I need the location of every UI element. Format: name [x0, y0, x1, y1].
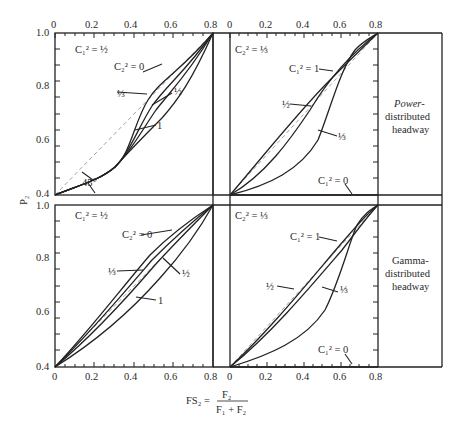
xlabel-denominator: F₁ + F₂ [216, 404, 247, 415]
gamma-label-1: Gamma- [392, 255, 429, 266]
label-b-c1-0: C₁² = 0 [318, 344, 348, 355]
label-b-half: ½ [182, 268, 190, 279]
power-label-1: Power- [393, 98, 425, 109]
svg-text:0.6: 0.6 [36, 306, 49, 317]
svg-text:0.2: 0.2 [259, 371, 272, 382]
svg-text:0: 0 [227, 19, 232, 30]
svg-text:0.8: 0.8 [36, 252, 49, 263]
svg-text:0.6: 0.6 [36, 134, 49, 145]
gamma-label-3: headway [392, 281, 430, 292]
svg-text:0.4: 0.4 [296, 19, 310, 30]
tick-y-1.0: 1.0 [36, 27, 49, 38]
label-b-third: ⅓ [108, 266, 116, 277]
svg-text:0.8: 0.8 [204, 371, 217, 382]
svg-text:1.0: 1.0 [36, 200, 49, 211]
curve-c1-third [230, 33, 378, 195]
gamma-label-2: distributed [385, 268, 431, 279]
label-b-one: 1 [158, 295, 163, 306]
svg-text:0: 0 [52, 371, 57, 382]
param-bottom-left: C₁² = ½ [75, 210, 108, 221]
tick-x-top-08: 0.8 [204, 19, 217, 30]
svg-text:0: 0 [227, 371, 232, 382]
svg-text:0.2: 0.2 [85, 371, 98, 382]
svg-text:0.8: 0.8 [369, 19, 382, 30]
svg-text:0.6: 0.6 [164, 371, 177, 382]
label-c1-third: ⅓ [338, 131, 346, 142]
curves-bottom-right [230, 205, 378, 367]
label-b-c1-1: C₁² = 1 [290, 231, 320, 242]
label-half: ½ [174, 86, 182, 97]
svg-text:0.4: 0.4 [36, 188, 50, 199]
power-label-2: distributed [385, 111, 431, 122]
tick-x-top-02: 0.2 [85, 19, 98, 30]
ylabel: P₂ [18, 195, 29, 205]
label-b-c2-0: C₂² = 0 [122, 229, 152, 240]
param-bottom-right: C₂² = ⅓ [235, 210, 268, 221]
svg-text:0.4: 0.4 [296, 371, 310, 382]
label-c1-0: C₁² = 0 [318, 175, 348, 186]
annotation-arrows [82, 64, 352, 364]
tick-x-top-06: 0.6 [164, 19, 177, 30]
param-top-right: C₂² = ⅓ [235, 44, 268, 55]
label-one: 1 [157, 120, 162, 131]
svg-text:0.6: 0.6 [333, 371, 346, 382]
xlabel-left: FS₂ = [186, 395, 210, 406]
power-label-3: headway [392, 124, 430, 135]
curve-b-c1-third [230, 205, 378, 367]
label-c1-half: ½ [282, 99, 290, 110]
tick-x-top-0: 0 [51, 19, 56, 30]
reference-45-lines [55, 33, 378, 367]
svg-text:0.8: 0.8 [36, 80, 49, 91]
param-top-left: C₁² = ½ [75, 44, 108, 55]
svg-text:0.4: 0.4 [124, 371, 138, 382]
curve-c1-1 [230, 33, 378, 195]
svg-text:0.6: 0.6 [333, 19, 346, 30]
axis-ticks [55, 33, 378, 367]
label-c1-1: C₁² = 1 [289, 63, 319, 74]
curves-top-right [230, 33, 378, 195]
label-angle: 45° [82, 177, 97, 188]
label-b-c1-half: ½ [266, 281, 274, 292]
svg-text:0.2: 0.2 [259, 19, 272, 30]
xlabel-numerator: F₂ [222, 389, 232, 400]
label-c2-0: C₂² = 0 [114, 61, 144, 72]
figure: 0 0.2 0.4 0.6 0.8 0 0.2 0.4 0.6 0.8 1.0 … [0, 0, 459, 429]
label-third: ⅓ [117, 88, 125, 99]
svg-text:0.4: 0.4 [36, 361, 50, 372]
tick-x-top-04: 0.4 [124, 19, 138, 30]
curve-c1-half [230, 33, 378, 195]
label-b-c1-third: ⅓ [340, 284, 348, 295]
svg-text:0.8: 0.8 [369, 371, 382, 382]
